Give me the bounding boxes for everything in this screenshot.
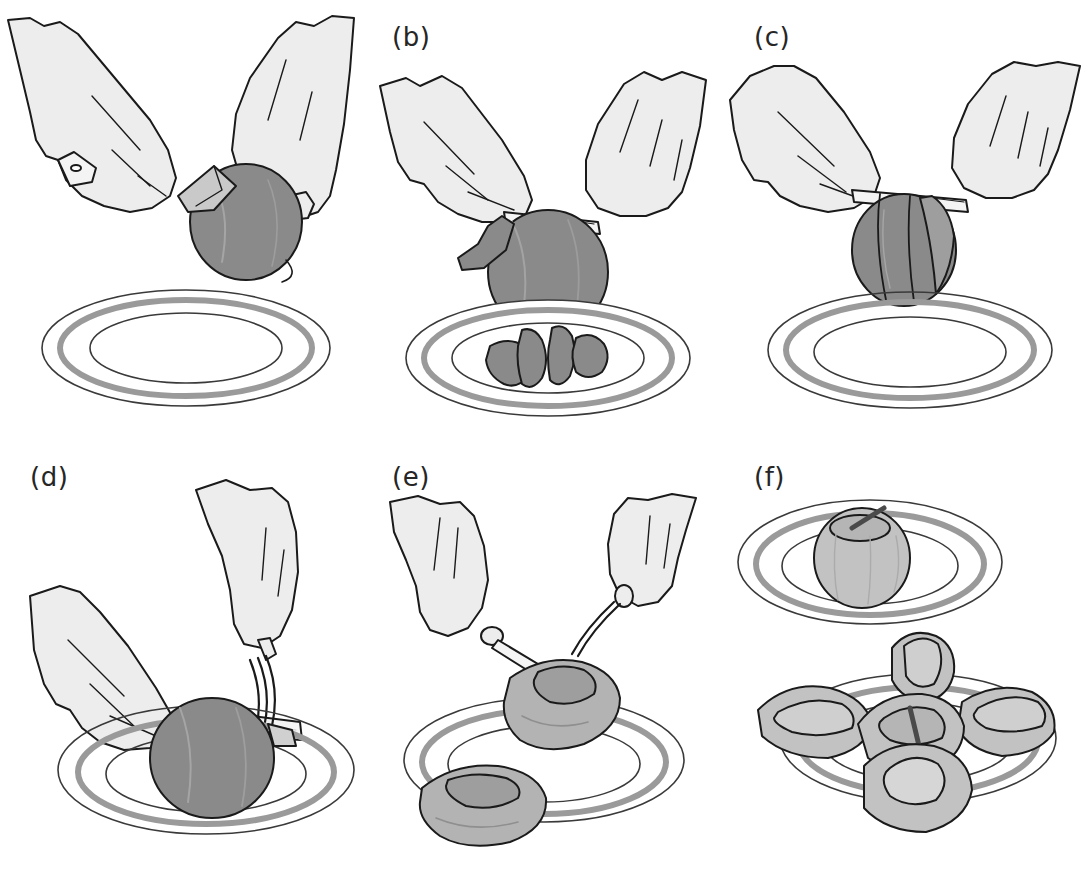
left-hand xyxy=(390,496,488,636)
plate-well-c xyxy=(814,317,1006,387)
right-hand xyxy=(586,72,706,216)
plate-well-a xyxy=(90,313,282,383)
plate-rim-outer-c xyxy=(768,292,1052,408)
panel-c-illustration xyxy=(724,0,1086,452)
peel-strip-4 xyxy=(572,335,607,377)
panel-b-illustration xyxy=(362,0,724,452)
fork-handle-tip-e xyxy=(615,585,633,607)
fork-tine-e2 xyxy=(572,602,614,654)
peel-strip-3 xyxy=(548,326,575,384)
left-hand xyxy=(380,76,532,222)
fork-tine-e1 xyxy=(578,604,620,656)
figure-root: (a) xyxy=(0,0,1086,892)
peel-strip-2 xyxy=(518,329,547,387)
fruit-core-opening-f xyxy=(830,515,890,541)
panel-a: (a) xyxy=(0,0,362,440)
fruit-core-cavity-e xyxy=(534,666,596,703)
panel-d: (d) xyxy=(0,440,362,892)
panel-a-illustration xyxy=(0,0,362,452)
panel-b: (b) xyxy=(362,0,724,440)
peeled-fruit-d xyxy=(150,698,274,818)
fruit-quarter-top-inner xyxy=(904,638,941,686)
fruit-quarter-bottom-inner xyxy=(884,758,945,804)
panel-f-illustration xyxy=(724,440,1086,892)
panel-d-illustration xyxy=(0,440,362,892)
panel-c: (c) xyxy=(724,0,1086,440)
figure-caption xyxy=(8,876,1078,892)
right-hand xyxy=(952,62,1080,198)
panel-e-illustration xyxy=(362,440,724,892)
panel-e: (e) xyxy=(362,440,724,892)
panel-f: (f) xyxy=(724,440,1086,892)
peeler-slot xyxy=(71,165,81,171)
